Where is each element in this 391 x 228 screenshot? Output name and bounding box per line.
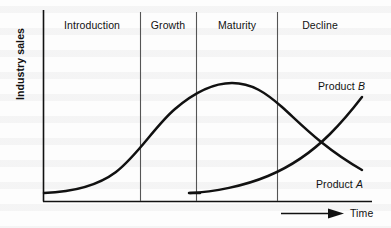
y-axis-label: Industry sales [14,28,26,100]
curve-label-product-a-prefix: Product [316,178,356,190]
curve-product-b [44,83,362,193]
curve-label-product-a-letter: A [356,178,363,190]
curve-label-product-b: Product B [318,80,365,92]
curve-label-product-b-letter: B [358,80,365,92]
stage-label-growth: Growth [151,19,185,31]
product-life-cycle-figure: Industry sales Introduction Growth Matur… [0,0,391,228]
stage-label-maturity: Maturity [218,19,256,31]
stage-label-decline: Decline [302,19,338,31]
curve-label-product-a: Product A [316,178,363,190]
x-axis-label: Time [350,207,373,219]
curve-label-product-b-prefix: Product [318,80,358,92]
time-arrow-head [328,209,344,219]
plot-area [0,0,391,228]
stage-label-introduction: Introduction [64,19,120,31]
